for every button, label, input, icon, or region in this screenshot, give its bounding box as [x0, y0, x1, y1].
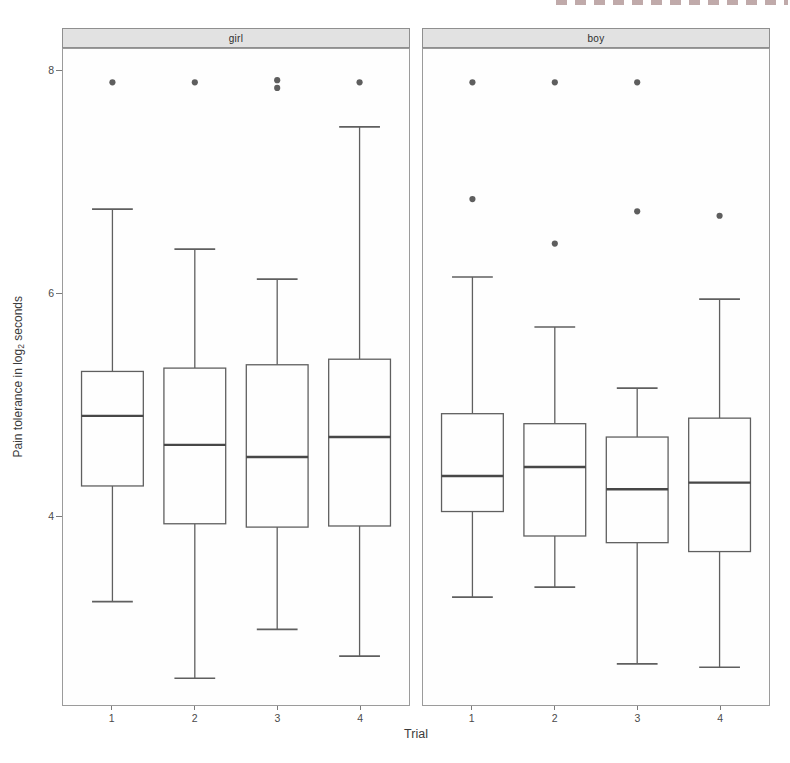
- x-tick-label: 3: [635, 712, 641, 724]
- x-tick-mark: [360, 706, 361, 710]
- y-tick-mark: [56, 70, 62, 71]
- boxplot-boy-trial-1: [442, 79, 504, 597]
- y-tick-label: 6: [30, 287, 54, 299]
- outlier-point: [192, 79, 198, 85]
- outlier-point: [634, 208, 640, 214]
- y-axis-title-text: Pain tolerance in log2 seconds: [11, 296, 26, 458]
- outlier-point: [552, 240, 558, 246]
- outlier-point: [552, 79, 558, 85]
- boxplot-girl-trial-1: [82, 79, 144, 601]
- boxplot-boy-trial-4: [689, 213, 751, 668]
- cropped-page-header-remnant: [556, 0, 788, 5]
- outlier-point: [634, 79, 640, 85]
- x-tick-mark: [720, 706, 721, 710]
- x-tick-label: 3: [275, 712, 281, 724]
- y-tick-mark: [56, 293, 62, 294]
- x-tick-mark: [111, 706, 112, 710]
- x-tick-label: 1: [109, 712, 115, 724]
- y-tick-label: 8: [30, 64, 54, 76]
- boxplot-canvas-girl: [63, 49, 409, 705]
- x-tick-label: 4: [357, 712, 363, 724]
- x-tick-mark: [554, 706, 555, 710]
- y-tick-label: 4: [30, 510, 54, 522]
- boxplot-girl-trial-4: [329, 79, 391, 656]
- x-tick-label: 2: [552, 712, 558, 724]
- facet-strip-girl-label: girl: [229, 33, 244, 44]
- boxplot-boy-trial-3: [606, 79, 668, 664]
- x-tick-mark: [637, 706, 638, 710]
- x-tick-label: 2: [192, 712, 198, 724]
- x-axis-boy: 1234: [422, 706, 770, 728]
- facet-strip-boy-label: boy: [587, 33, 604, 44]
- facet-strip-boy: boy: [422, 28, 770, 48]
- outlier-point: [274, 77, 280, 83]
- x-tick-label: 4: [717, 712, 723, 724]
- x-tick-mark: [471, 706, 472, 710]
- outlier-point: [109, 79, 115, 85]
- y-tick-mark: [56, 516, 62, 517]
- outlier-point: [469, 196, 475, 202]
- x-tick-label: 1: [469, 712, 475, 724]
- boxplot-girl-trial-3: [246, 77, 308, 629]
- outlier-point: [716, 213, 722, 219]
- x-tick-mark: [194, 706, 195, 710]
- x-axis-girl: 1234: [62, 706, 410, 728]
- outlier-point: [274, 85, 280, 91]
- y-axis-title: Pain tolerance in log2 seconds: [6, 48, 32, 706]
- outlier-point: [356, 79, 362, 85]
- outlier-point: [469, 79, 475, 85]
- x-axis-title: Trial: [62, 727, 770, 741]
- facet-strip-girl: girl: [62, 28, 410, 48]
- panel-girl: [62, 48, 410, 706]
- boxplot-canvas-boy: [423, 49, 769, 705]
- boxplot-girl-trial-2: [164, 79, 226, 678]
- x-tick-mark: [277, 706, 278, 710]
- pain-tolerance-boxplot-figure: girl boy 864 1234 1234 Trial Pain tolera…: [0, 0, 790, 763]
- boxplot-boy-trial-2: [524, 79, 586, 587]
- panel-boy: [422, 48, 770, 706]
